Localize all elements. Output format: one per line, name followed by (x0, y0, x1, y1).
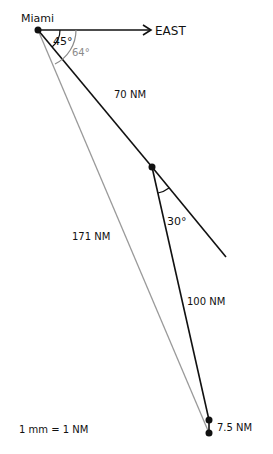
angle-label-30: 30° (167, 215, 187, 228)
error-distance-label: 7.5 NM (217, 422, 252, 433)
leg-1-extension-line (152, 167, 226, 257)
miami-point (35, 27, 42, 34)
east-label: EAST (155, 24, 186, 38)
vector-diagram: Miami EAST 45° 64° 70 NM 30° 171 NM 100 … (0, 0, 273, 454)
origin-label: Miami (21, 12, 54, 25)
angle-label-64: 64° (72, 47, 90, 58)
actual-position-point (206, 430, 213, 437)
leg-1-distance-label: 70 NM (114, 89, 146, 100)
dead-reckoning-point (206, 417, 213, 424)
angle-arc-30 (158, 188, 169, 193)
angle-label-45: 45° (53, 35, 73, 48)
scale-label: 1 mm = 1 NM (19, 424, 88, 435)
resultant-distance-label: 171 NM (72, 231, 110, 242)
waypoint-point (149, 164, 156, 171)
leg-2-distance-label: 100 NM (187, 296, 225, 307)
leg-2-line (152, 167, 209, 420)
